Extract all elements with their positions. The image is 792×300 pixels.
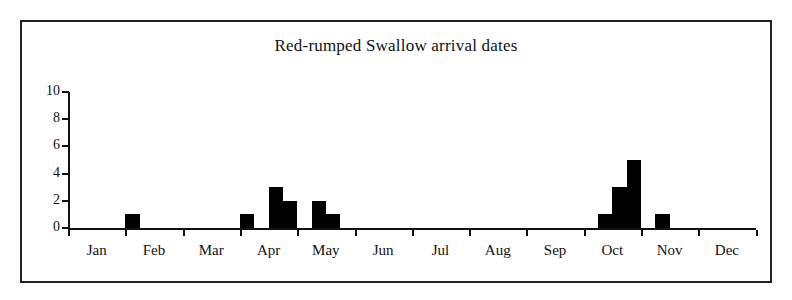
x-tick-label-jun: Jun	[355, 243, 411, 258]
x-tick-4	[297, 230, 299, 236]
bar	[312, 201, 326, 228]
bar	[612, 187, 626, 228]
y-tick-6	[62, 145, 69, 147]
x-tick-6	[412, 230, 414, 236]
x-tick-3	[240, 230, 242, 236]
y-tick-10	[62, 91, 69, 93]
y-tick-label-2: 2	[34, 193, 60, 207]
x-tick-label-dec: Dec	[699, 243, 755, 258]
x-tick-label-nov: Nov	[642, 243, 698, 258]
bar	[326, 214, 340, 228]
x-tick-label-mar: Mar	[183, 243, 239, 258]
y-tick-0	[62, 227, 69, 229]
bar	[240, 214, 254, 228]
y-tick-4	[62, 173, 69, 175]
bar	[283, 201, 297, 228]
x-tick-10	[641, 230, 643, 236]
x-tick-1	[125, 230, 127, 236]
x-tick-9	[584, 230, 586, 236]
y-tick-2	[62, 200, 69, 202]
x-tick-5	[355, 230, 357, 236]
x-tick-2	[183, 230, 185, 236]
y-tick-label-0: 0	[34, 220, 60, 234]
x-tick-label-feb: Feb	[126, 243, 182, 258]
y-axis-line	[68, 92, 70, 230]
x-tick-label-apr: Apr	[241, 243, 297, 258]
x-tick-11	[698, 230, 700, 236]
x-tick-label-aug: Aug	[470, 243, 526, 258]
x-tick-label-oct: Oct	[584, 243, 640, 258]
x-tick-label-jan: Jan	[69, 243, 125, 258]
y-tick-label-6: 6	[34, 138, 60, 152]
plot-area: 0246810 JanFebMarAprMayJunJulAugSepOctNo…	[0, 0, 792, 300]
x-tick-8	[526, 230, 528, 236]
y-tick-label-8: 8	[34, 111, 60, 125]
x-tick-12	[756, 230, 758, 236]
x-tick-label-jul: Jul	[412, 243, 468, 258]
chart-page: Red-rumped Swallow arrival dates 0246810…	[0, 0, 792, 300]
bar	[125, 214, 139, 228]
bar	[655, 214, 669, 228]
bar	[627, 160, 641, 228]
x-tick-7	[469, 230, 471, 236]
x-tick-0	[68, 230, 70, 236]
x-tick-label-may: May	[298, 243, 354, 258]
y-tick-label-10: 10	[34, 84, 60, 98]
bar	[269, 187, 283, 228]
bar	[598, 214, 612, 228]
y-tick-8	[62, 118, 69, 120]
y-tick-label-4: 4	[34, 166, 60, 180]
x-tick-label-sep: Sep	[527, 243, 583, 258]
